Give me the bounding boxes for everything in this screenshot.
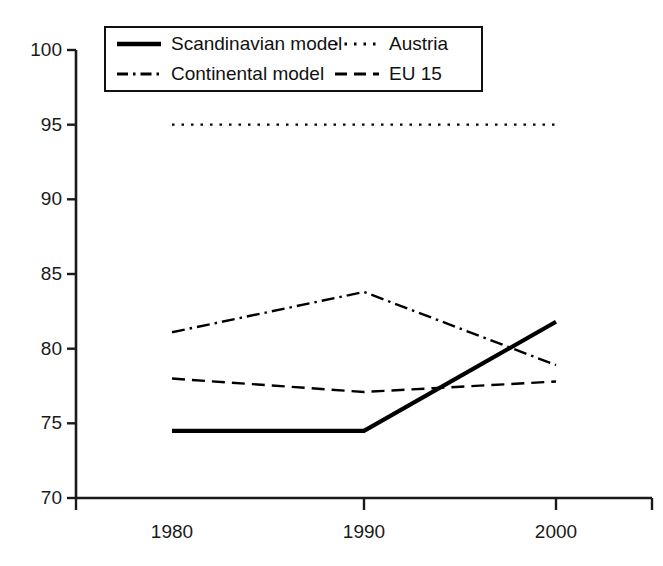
legend-entry-austria: Austria [334,31,448,57]
series-line-scandinavian-model [172,322,556,431]
legend-label-continental-model: Continental model [171,63,324,85]
legend-entry-continental-model: Continental model [116,61,324,87]
legend-label-austria: Austria [389,33,448,55]
x-tick-marks [76,498,652,510]
x-tick-label-1980: 1980 [127,521,217,543]
y-tick-label-95: 95 [8,114,62,136]
y-tick-label-80: 80 [8,338,62,360]
line-chart: 100 95 90 85 80 75 70 1980 1990 2000 Sca… [0,0,663,566]
legend-label-eu-15: EU 15 [389,63,442,85]
y-tick-label-100: 100 [8,39,62,61]
series-line-eu-15 [172,379,556,392]
y-tick-marks [67,50,76,498]
x-tick-label-2000: 2000 [511,521,601,543]
x-tick-label-1990: 1990 [319,521,409,543]
legend-swatch-dotted-icon [334,37,380,51]
legend-swatch-solid-icon [116,37,162,51]
legend-entry-eu-15: EU 15 [334,61,442,87]
legend-swatch-dashed-icon [334,67,380,81]
legend-entry-scandinavian-model: Scandinavian model [116,31,342,57]
y-tick-label-85: 85 [8,263,62,285]
legend-label-scandinavian-model: Scandinavian model [171,33,342,55]
legend-swatch-dashdot-icon [116,67,162,81]
y-tick-label-90: 90 [8,188,62,210]
y-tick-label-70: 70 [8,487,62,509]
legend: Scandinavian model Austria Continental m… [104,26,483,92]
y-tick-label-75: 75 [8,412,62,434]
